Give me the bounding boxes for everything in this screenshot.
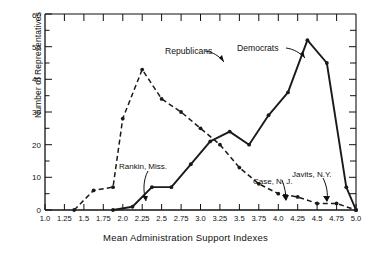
data-point [208,140,212,144]
data-point [267,113,271,117]
data-point [131,205,135,209]
x-axis-top-ticks [64,14,336,21]
annotation-arrowheads [142,51,330,202]
data-point [335,202,339,206]
x-tick-label: 3.75 [251,214,266,223]
data-point [199,126,203,130]
y-tick-label: 10 [32,173,41,182]
x-tick-label: 2.5 [156,214,167,223]
data-point [228,130,232,134]
y-axis-title: Number of Representatives [33,0,43,135]
data-point [121,117,125,121]
annotation-javits: Javits, N.Y. [292,170,331,179]
data-point [72,208,76,212]
x-tick-label: 1.75 [96,214,111,223]
x-tick-label: 3.25 [213,214,228,223]
data-point [169,185,173,189]
series-democrats [111,38,358,212]
x-tick-label: 1.5 [79,214,90,223]
x-tick-label: 2.0 [118,214,129,223]
data-point [140,68,144,72]
series-line-democrats [113,40,356,210]
data-point [276,192,280,196]
data-point [286,91,290,95]
data-point [344,185,348,189]
x-tick-label: 2.75 [174,214,189,223]
data-point [189,162,193,166]
data-point [179,110,183,114]
x-tick-label: 1.0 [40,214,51,223]
series-label-democrats: Democrats [237,43,279,53]
data-point [160,97,164,101]
data-point [111,185,115,189]
data-series-layer [72,38,358,212]
series-label-republicans: Republicans [165,46,212,56]
data-point [111,208,115,212]
case-arrowhead [282,195,289,201]
x-tick-label: 2.25 [135,214,150,223]
annotation-case: Case, N. J. [253,177,293,186]
annotation-labels: Republicans Democrats Rankin, Miss. Case… [119,43,331,186]
y-tick-label: 20 [32,141,41,150]
y-axis-right-ticks [349,30,356,193]
y-axis-ticks [45,14,52,210]
x-tick-label: 4.75 [329,214,344,223]
data-point [92,189,96,193]
x-tick-label: 4.5 [312,214,323,223]
annotation-rankin: Rankin, Miss. [119,162,167,171]
data-point [354,208,358,212]
x-axis-ticks [45,204,356,210]
x-tick-label: 3.0 [195,214,206,223]
x-tick-label: 3.5 [234,214,245,223]
javits-arrowhead [323,196,330,202]
data-point [247,143,251,147]
data-point [315,202,319,206]
x-tick-label: 4.25 [290,214,305,223]
x-tick-label: 1.25 [57,214,72,223]
data-point [306,38,310,42]
representatives-distribution-chart: 0 10 20 30 40 50 60 [0,0,371,253]
data-point [150,185,154,189]
x-tick-labels: 1.0 1.25 1.5 1.75 2.0 2.25 2.5 2.75 3.0 … [40,214,362,223]
x-axis-title: Mean Administration Support Indexes [0,232,371,243]
republicans-arrowhead [219,55,224,62]
x-tick-label: 4.0 [273,214,284,223]
x-tick-label: 5.0 [351,214,362,223]
data-point [296,195,300,199]
data-point [325,61,329,65]
chart-container: 0 10 20 30 40 50 60 [0,0,371,253]
data-point [218,143,222,147]
rankin-arrowhead [142,196,148,201]
data-point [237,166,241,170]
